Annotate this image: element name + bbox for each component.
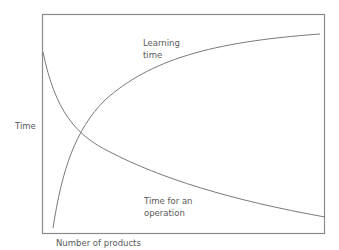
x-axis-label: Number of products: [56, 238, 141, 249]
operation-time-curve: [43, 52, 325, 217]
learning-time-label-line2: time: [143, 50, 162, 61]
operation-time-label-line2: operation: [144, 208, 185, 219]
learning-time-label-line1: Learning: [143, 38, 180, 49]
y-axis-label: Time: [15, 121, 36, 132]
operation-time-label-line1: Time for an: [144, 196, 193, 207]
